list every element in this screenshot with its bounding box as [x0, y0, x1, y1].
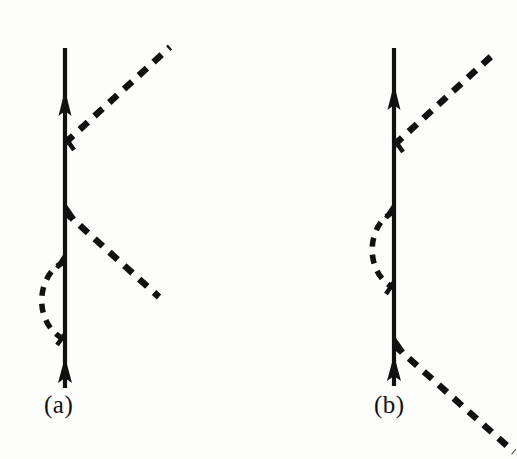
- figure-root: (a) (b): [0, 0, 517, 459]
- panel-a-caption: (a): [44, 391, 73, 419]
- panel-a-self-energy-loop: [42, 262, 65, 340]
- panel-a-upper-boson-line: [65, 47, 170, 143]
- panel-b-upper-boson-line: [394, 52, 496, 145]
- panel-b-lower-boson-line: [394, 345, 514, 452]
- panel-b-caption: (b): [374, 391, 405, 419]
- panel-b-self-energy-loop: [372, 212, 394, 288]
- feynman-diagram-canvas: [0, 0, 517, 459]
- panel-a-lower-boson-line: [65, 212, 159, 297]
- panel-a: [42, 47, 170, 388]
